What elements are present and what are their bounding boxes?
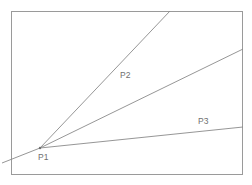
label-p3: P3 [198, 116, 209, 126]
line-diagram-svg: P1 P2 P3 [0, 0, 252, 185]
diagram-canvas: P1 P2 P3 [0, 0, 252, 185]
label-p1: P1 [38, 152, 49, 162]
diagram-frame-border [12, 12, 243, 175]
label-p2: P2 [120, 70, 131, 80]
vertex-point-p1 [39, 147, 41, 149]
